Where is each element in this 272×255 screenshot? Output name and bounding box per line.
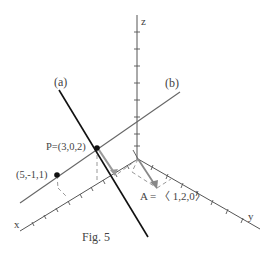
line-b-label: (b): [165, 76, 179, 90]
y-axis-label: y: [248, 210, 254, 222]
vector-a-label: A = 〈 1,2,0〉: [140, 190, 206, 202]
point-q-label: (5,-1,1): [16, 169, 48, 181]
figure-5: z x y: [0, 0, 272, 255]
point-q: (5,-1,1): [16, 169, 60, 181]
z-axis: z: [134, 15, 146, 159]
figure-caption: Fig. 5: [82, 230, 110, 244]
vector-a: A = 〈 1,2,0〉: [138, 159, 206, 202]
line-a-label: (a): [54, 75, 67, 89]
line-a: (a): [54, 75, 148, 237]
x-axis-label: x: [14, 218, 20, 230]
z-axis-label: z: [141, 15, 146, 27]
point-p-label: P=(3,0,2): [46, 141, 86, 153]
